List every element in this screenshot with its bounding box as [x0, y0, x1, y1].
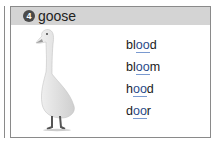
word-item: bloom [126, 56, 160, 78]
word-item: hood [126, 78, 160, 100]
card-title: goose [38, 8, 76, 24]
goose-icon [30, 26, 86, 132]
word-item: door [126, 100, 160, 122]
card-number-badge: 4 [23, 10, 35, 22]
previous-card-border [0, 6, 5, 138]
word-item: blood [126, 34, 160, 56]
word-list: blood bloom hood door [126, 34, 160, 122]
card-header: 4 goose [11, 7, 210, 25]
